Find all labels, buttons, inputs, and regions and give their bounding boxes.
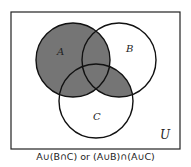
label-universe: U — [160, 128, 171, 142]
venn-diagram: A B C U — [0, 0, 191, 167]
label-c: C — [93, 111, 101, 122]
label-b: B — [125, 43, 133, 54]
caption: A∪(B∩C) or (A∪B)∩(A∪C) — [0, 151, 191, 162]
label-a: A — [56, 46, 64, 57]
